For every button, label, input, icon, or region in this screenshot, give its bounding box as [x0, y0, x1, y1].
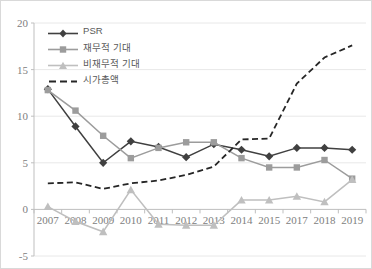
y-tick-label: -5: [19, 250, 29, 262]
legend-item-marketcap: 시가총액: [48, 71, 140, 86]
y-tick-label: 10: [17, 110, 29, 122]
data-point: [44, 202, 52, 210]
y-tick-label: 15: [17, 64, 29, 76]
data-point: [266, 164, 272, 170]
legend-label-marketcap: 시가총액: [83, 72, 119, 86]
legend-item-financial: 재무적 기대: [48, 39, 140, 54]
data-point: [320, 144, 328, 152]
data-point: [238, 155, 244, 161]
data-point: [72, 107, 78, 113]
legend-item-psr: PSR: [48, 23, 140, 38]
data-point: [293, 144, 301, 152]
data-point: [45, 87, 51, 93]
y-tick-label: 0: [23, 203, 29, 215]
chart-legend: PSR 재무적 기대 비재무적 기대: [48, 23, 140, 87]
x-tick-label: 2017: [286, 214, 309, 226]
legend-key-financial: [48, 41, 78, 52]
data-point: [265, 152, 273, 160]
legend-key-psr: [48, 25, 78, 36]
data-point: [237, 146, 245, 154]
x-tick-label: 2018: [314, 214, 337, 226]
series-diamond: [44, 85, 357, 167]
x-tick-label: 2007: [37, 214, 60, 226]
series-line: [48, 90, 352, 179]
y-axis-tick-labels: 20151050-5: [17, 17, 29, 262]
data-point: [348, 146, 356, 154]
legend-key-nonfinancial: [48, 57, 78, 68]
legend-item-nonfinancial: 비재무적 기대: [48, 55, 140, 70]
data-point: [182, 153, 190, 161]
chart-container: 20151050-5 20072008200920102011201220132…: [0, 0, 372, 269]
x-tick-label: 2019: [341, 214, 364, 226]
data-point: [294, 164, 300, 170]
data-point: [321, 157, 327, 163]
legend-key-marketcap: [48, 73, 78, 84]
y-tick-label: 20: [17, 17, 29, 29]
data-point: [100, 133, 106, 139]
data-point: [127, 186, 135, 194]
data-point: [211, 139, 217, 145]
x-tick-label: 2014: [231, 214, 254, 226]
series-square: [45, 87, 356, 182]
data-point: [155, 145, 161, 151]
legend-label-financial: 재무적 기대: [83, 40, 131, 54]
series-triangle: [44, 175, 357, 235]
y-tick-label: 5: [23, 157, 29, 169]
x-tick-label: 2015: [258, 214, 281, 226]
data-point: [293, 192, 301, 200]
data-point: [128, 155, 134, 161]
legend-label-psr: PSR: [83, 25, 103, 36]
data-point: [183, 139, 189, 145]
x-tick-label: 2010: [120, 214, 143, 226]
legend-label-nonfinancial: 비재무적 기대: [83, 56, 140, 70]
